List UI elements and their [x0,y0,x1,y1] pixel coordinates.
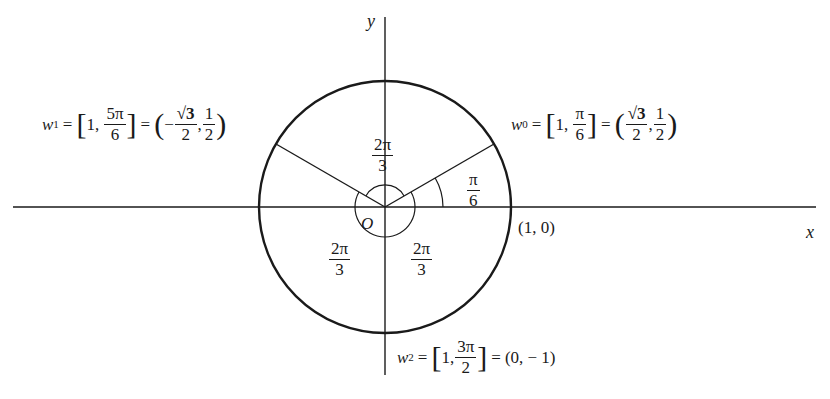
x-axis-label: x [806,223,814,241]
y-axis-label: y [367,12,375,30]
point-w0-label: w0 = [1, π6] = ( √32, 12) [511,105,677,144]
angle-label-top-2pi-3: 2π3 [371,136,394,175]
radius-w1 [276,144,385,207]
angle-label-lower-right-2pi-3: 2π3 [410,240,433,279]
point-w1-label: w1 = [1, 5π6] = (− √32, 12) [42,105,226,144]
angle-label-pi-6: π6 [466,171,481,210]
point-1-0-label: (1, 0) [518,219,555,236]
angle-label-lower-left-2pi-3: 2π3 [328,240,351,279]
angle-arc-pi6 [435,178,443,207]
origin-label: O [361,215,373,232]
point-w2-label: w2 = [1, 3π2] = (0, − 1) [397,338,556,377]
